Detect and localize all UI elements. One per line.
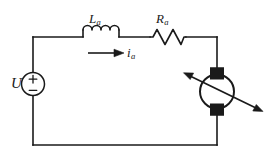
inductor-symbol [83,26,119,38]
inductor-label-symbol: L [89,11,96,26]
motor-brush-top-overlay [211,68,224,79]
voltage-source-label: U [11,76,22,91]
resistor-symbol [150,30,186,45]
motor-brush-bottom-overlay [211,104,224,115]
current-label: ia [127,46,135,59]
resistor-label-symbol: R [156,11,164,26]
motor-armature-circle [200,75,234,109]
inductor-label-subscript: a [97,17,101,27]
resistor-label-subscript: a [164,17,168,27]
voltage-source-label-symbol: U [11,75,22,91]
circuit-diagram: U La Ra ia [0,0,277,163]
inductor-label: La [89,12,101,25]
motor-symbol [184,68,264,115]
circuit-schematic-svg [0,0,277,163]
current-label-subscript: a [131,51,135,61]
voltage-source-symbol [22,73,45,96]
current-arrow-icon [88,49,124,57]
resistor-label: Ra [156,12,168,25]
